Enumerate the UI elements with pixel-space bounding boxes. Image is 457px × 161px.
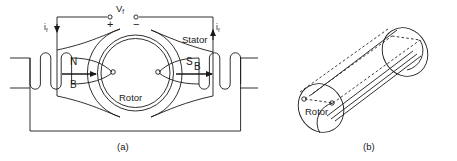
pole-label-north: N	[70, 57, 77, 67]
caption-panel-a: (a)	[117, 142, 129, 152]
caption-panel-b: (b)	[363, 142, 375, 152]
rotor-label-panel-a: Rotor	[119, 93, 142, 103]
cylinder-far-end	[373, 19, 436, 84]
field-coil-left	[10, 50, 72, 96]
field-label-left: B	[70, 80, 77, 90]
cylinder-end-arcs	[317, 40, 423, 133]
field-label-right: B	[194, 62, 201, 72]
stator-label: Stator	[182, 35, 207, 45]
figure-synchronous-machine-field-circuit: Vf + − if if Stator N S B B Rotor (a) Ro…	[0, 0, 457, 161]
rotor-label-panel-b: Rotor	[305, 107, 328, 117]
stator-arc-shells	[87, 29, 182, 117]
terminal-sign-positive: +	[107, 19, 113, 30]
terminal-sign-negative: −	[133, 19, 139, 30]
figure-drawing-canvas	[0, 0, 457, 161]
current-label-right: if	[216, 23, 220, 33]
voltage-label: Vf	[116, 4, 124, 15]
current-label-left: if	[44, 23, 48, 33]
panel-b-drawing	[289, 19, 436, 140]
pole-label-south: S	[186, 57, 193, 67]
rotor-internal-winding-dashed	[300, 29, 420, 103]
